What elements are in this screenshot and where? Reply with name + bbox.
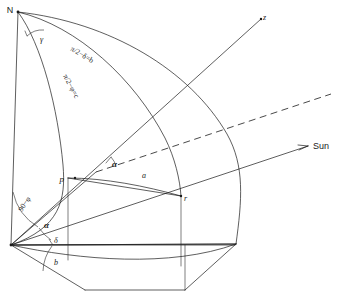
quad-edge-p-upper [68,178,181,196]
dot-origin [10,244,13,247]
angle-tick-gamma [25,31,27,36]
outer-limb-arc [18,12,241,244]
label-north-pole: N [7,5,14,15]
label-side-b: π/2−δ=b [69,44,96,65]
label-angle-gamma: γ [40,35,44,44]
dot-north-pole [17,11,20,14]
label-point-p: p [59,174,65,184]
diagram-canvas: N z Sun p r γ π/2−δ=b π/2−φ=c a α 90−φ α… [0,0,341,301]
dot-zenith [260,18,262,20]
dot-point-p [74,177,76,179]
label-angle-alpha-p: α [112,159,118,169]
spherical-astronomy-diagram: N z Sun p r γ π/2−δ=b π/2−φ=c a α 90−φ α… [0,0,341,301]
label-sun: Sun [313,141,329,151]
left-meridian-line [11,12,18,245]
label-colatitude: 90−φ [16,194,33,213]
sun-ray-line [11,146,308,245]
label-side-a: a [142,171,146,180]
label-angle-alpha-origin: α [44,220,50,230]
horizon-arc [11,244,236,259]
label-point-r: r [184,194,188,203]
label-angle-delta: δ [54,236,58,245]
dot-point-r [180,195,182,197]
angle-tick-alpha-p [106,157,111,163]
zenith-axis-line [11,19,261,245]
lower-polygon-edge-2 [185,244,236,290]
label-angle-b: b [54,258,58,267]
dashed-parallel-line [96,94,331,172]
label-zenith: z [262,13,267,22]
label-side-c: π/2−φ=c [61,73,81,101]
